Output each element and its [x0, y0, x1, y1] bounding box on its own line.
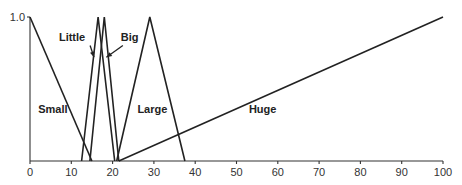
membership-functions: [30, 17, 443, 161]
y-tick-label: 1.0: [10, 11, 25, 23]
x-tick-label: 10: [65, 166, 77, 178]
x-tick-label: 20: [106, 166, 118, 178]
x-tick-label: 100: [434, 166, 452, 178]
set-labels: SmallLittleBigLargeHuge: [38, 31, 276, 115]
arrowhead-icon: [90, 51, 94, 57]
label-large: Large: [137, 103, 167, 115]
x-tick-label: 50: [230, 166, 242, 178]
label-huge: Huge: [249, 103, 277, 115]
x-tick-label: 40: [189, 166, 201, 178]
label-big: Big: [121, 31, 139, 43]
x-tick-label: 30: [148, 166, 160, 178]
label-small: Small: [38, 103, 67, 115]
x-tick-label: 80: [354, 166, 366, 178]
x-tick-label: 0: [27, 166, 33, 178]
x-tick-label: 60: [272, 166, 284, 178]
membership-little: [82, 17, 115, 161]
fuzzy-membership-chart: 01020304050607080901001.0 SmallLittleBig…: [0, 0, 462, 185]
x-tick-label: 90: [396, 166, 408, 178]
label-little: Little: [59, 31, 85, 43]
x-tick-label: 70: [313, 166, 325, 178]
membership-big: [90, 17, 119, 161]
